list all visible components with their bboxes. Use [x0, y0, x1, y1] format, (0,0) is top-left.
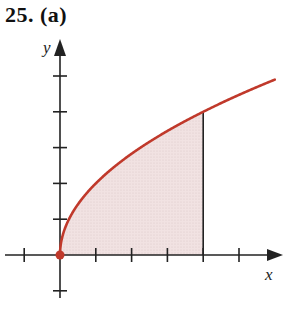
origin-dot	[56, 251, 65, 260]
shaded-area	[60, 112, 203, 255]
x-axis-arrow-icon	[267, 249, 283, 261]
x-axis-label: x	[264, 265, 273, 284]
y-axis-arrow-icon	[54, 39, 66, 56]
function-plot: x y	[0, 0, 287, 321]
y-axis-label: y	[41, 38, 51, 57]
